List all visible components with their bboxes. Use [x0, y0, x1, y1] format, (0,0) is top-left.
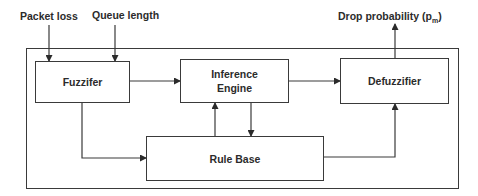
fuzzifier-block: Fuzzifer	[35, 61, 130, 103]
output-label-suffix: )	[438, 10, 442, 22]
input-label-packet-loss: Packet loss	[20, 10, 78, 22]
arrow-rule-base-to-defuzzifier	[323, 104, 395, 157]
inference-engine-label-line1: Inference	[211, 67, 258, 81]
inference-engine-block: Inference Engine	[180, 59, 289, 103]
arrow-fuzzifier-to-rule-base	[82, 102, 146, 158]
fuzzifier-label: Fuzzifer	[63, 75, 103, 89]
defuzzifier-label: Defuzzifier	[368, 74, 421, 88]
rule-base-label: Rule Base	[210, 152, 261, 166]
rule-base-block: Rule Base	[146, 136, 324, 181]
output-label-drop-probability: Drop probability (pm)	[338, 10, 442, 24]
inference-engine-label-line2: Engine	[217, 81, 252, 95]
defuzzifier-block: Defuzzifier	[340, 58, 449, 104]
output-label-text: Drop probability (p	[338, 10, 432, 22]
input-label-queue-length: Queue length	[92, 9, 159, 21]
